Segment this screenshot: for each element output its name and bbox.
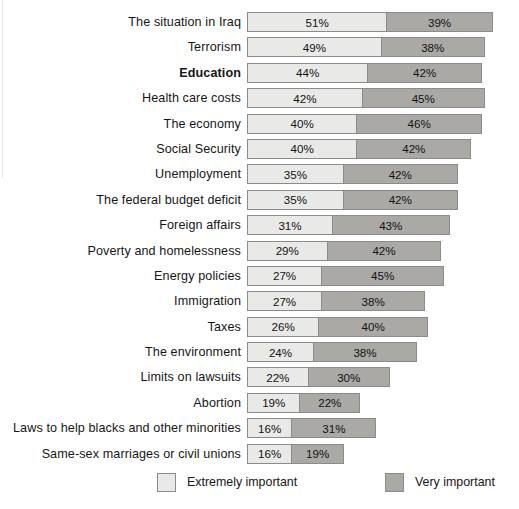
bar-segment-very-important: 30% — [308, 368, 389, 386]
category-label: Foreign affairs — [159, 215, 241, 235]
category-label: The federal budget deficit — [96, 190, 241, 210]
stacked-bar: 26%40% — [247, 317, 428, 337]
bar-segment-extremely-important: 35% — [248, 165, 343, 183]
stacked-bar: 27%45% — [247, 266, 444, 286]
category-label: Immigration — [174, 291, 241, 311]
bar-segment-very-important: 38% — [321, 292, 424, 310]
category-label: The environment — [145, 342, 241, 362]
stacked-bar: 35%42% — [247, 164, 458, 184]
legend-swatch-very-important — [385, 473, 404, 492]
bar-segment-very-important: 42% — [367, 64, 481, 82]
stacked-bar: 29%42% — [247, 241, 441, 261]
bar-segment-extremely-important: 27% — [248, 292, 321, 310]
bar-segment-extremely-important: 42% — [248, 89, 362, 107]
bar-segment-extremely-important: 27% — [248, 267, 321, 285]
legend-label-extremely-important: Extremely important — [187, 475, 297, 489]
stacked-bar: 31%43% — [247, 215, 450, 235]
chart-row: Immigration27%38% — [0, 291, 519, 311]
stacked-bar-chart: The situation in Iraq51%39%Terrorism49%3… — [0, 0, 519, 509]
bar-segment-extremely-important: 26% — [248, 318, 318, 336]
chart-legend: Extremely important Very important — [0, 472, 519, 496]
chart-row: The environment24%38% — [0, 342, 519, 362]
legend-label-very-important: Very important — [415, 475, 495, 489]
stacked-bar: 44%42% — [247, 63, 482, 83]
stacked-bar: 16%19% — [247, 444, 344, 464]
category-label: The economy — [164, 114, 241, 134]
bar-segment-extremely-important: 51% — [248, 13, 386, 31]
stacked-bar: 22%30% — [247, 367, 390, 387]
stacked-bar: 27%38% — [247, 291, 425, 311]
bar-segment-very-important: 45% — [362, 89, 484, 107]
chart-row: Abortion19%22% — [0, 393, 519, 413]
chart-row: The federal budget deficit35%42% — [0, 190, 519, 210]
legend-item-extremely-important: Extremely important — [157, 472, 297, 492]
bar-segment-extremely-important: 24% — [248, 343, 313, 361]
bar-segment-extremely-important: 19% — [248, 394, 299, 412]
chart-row: Terrorism49%38% — [0, 37, 519, 57]
category-label: Laws to help blacks and other minorities — [13, 418, 241, 438]
stacked-bar: 49%38% — [247, 37, 485, 57]
bar-segment-extremely-important: 40% — [248, 115, 356, 133]
chart-row: Poverty and homelessness29%42% — [0, 241, 519, 261]
chart-row: Education44%42% — [0, 63, 519, 83]
bar-segment-very-important: 22% — [299, 394, 359, 412]
category-label: Health care costs — [142, 88, 241, 108]
legend-item-very-important: Very important — [385, 472, 495, 492]
bar-segment-extremely-important: 29% — [248, 242, 327, 260]
chart-row: Energy policies27%45% — [0, 266, 519, 286]
category-label: Abortion — [193, 393, 241, 413]
bar-segment-very-important: 42% — [327, 242, 441, 260]
chart-row: Social Security40%42% — [0, 139, 519, 159]
bar-segment-extremely-important: 22% — [248, 368, 308, 386]
bar-segment-very-important: 43% — [332, 216, 449, 234]
category-label: Poverty and homelessness — [87, 241, 241, 261]
chart-row: The economy40%46% — [0, 114, 519, 134]
category-label: Same-sex marriages or civil unions — [42, 444, 241, 464]
bar-segment-very-important: 46% — [356, 115, 481, 133]
chart-row: Limits on lawsuits22%30% — [0, 367, 519, 387]
bar-segment-extremely-important: 35% — [248, 191, 343, 209]
bar-segment-extremely-important: 40% — [248, 140, 356, 158]
legend-swatch-extremely-important — [157, 473, 176, 492]
bar-segment-very-important: 42% — [343, 165, 457, 183]
category-label: Energy policies — [154, 266, 241, 286]
category-label: Terrorism — [188, 37, 241, 57]
category-label: Education — [179, 63, 241, 83]
bar-segment-very-important: 38% — [381, 38, 484, 56]
stacked-bar: 24%38% — [247, 342, 417, 362]
category-label: Social Security — [156, 139, 241, 159]
bar-segment-extremely-important: 44% — [248, 64, 367, 82]
bar-segment-very-important: 38% — [313, 343, 416, 361]
category-label: Limits on lawsuits — [141, 367, 241, 387]
chart-rows: The situation in Iraq51%39%Terrorism49%3… — [0, 12, 519, 469]
chart-row: Unemployment35%42% — [0, 164, 519, 184]
stacked-bar: 42%45% — [247, 88, 485, 108]
bar-segment-very-important: 42% — [356, 140, 470, 158]
bar-segment-extremely-important: 49% — [248, 38, 381, 56]
chart-row: Health care costs42%45% — [0, 88, 519, 108]
bar-segment-very-important: 40% — [318, 318, 426, 336]
category-label: Unemployment — [155, 164, 241, 184]
chart-row: Taxes26%40% — [0, 317, 519, 337]
bar-segment-very-important: 31% — [291, 419, 375, 437]
bar-segment-very-important: 19% — [291, 445, 342, 463]
stacked-bar: 35%42% — [247, 190, 458, 210]
stacked-bar: 40%42% — [247, 139, 471, 159]
stacked-bar: 51%39% — [247, 12, 493, 32]
bar-segment-very-important: 39% — [386, 13, 492, 31]
chart-row: Laws to help blacks and other minorities… — [0, 418, 519, 438]
bar-segment-extremely-important: 16% — [248, 419, 291, 437]
bar-segment-extremely-important: 31% — [248, 216, 332, 234]
chart-row: Foreign affairs31%43% — [0, 215, 519, 235]
stacked-bar: 40%46% — [247, 114, 482, 134]
bar-segment-very-important: 42% — [343, 191, 457, 209]
category-label: The situation in Iraq — [128, 12, 241, 32]
bar-segment-very-important: 45% — [321, 267, 443, 285]
chart-row: Same-sex marriages or civil unions16%19% — [0, 444, 519, 464]
chart-row: The situation in Iraq51%39% — [0, 12, 519, 32]
bar-segment-extremely-important: 16% — [248, 445, 291, 463]
stacked-bar: 16%31% — [247, 418, 376, 438]
category-label: Taxes — [208, 317, 241, 337]
stacked-bar: 19%22% — [247, 393, 360, 413]
